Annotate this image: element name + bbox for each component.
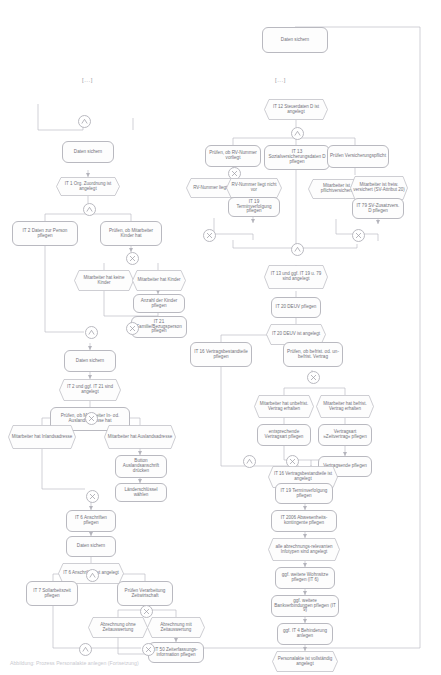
node-save-1[interactable]: Daten sichern (62, 141, 114, 163)
event-label: IT 1 Org. Zuordnung ist angelegt (56, 177, 120, 196)
node-pruefen-zeitwirtschaft[interactable]: Prüfen Verarbeitung Zeitwirtschaft (117, 581, 173, 606)
node-event-mit-zeitauswertung[interactable]: Abrechnung mit Zeitauswertung (147, 617, 205, 638)
figure-caption: Abbildung: Prozess Personalakte anlegen … (10, 660, 139, 666)
connector-and-r1[interactable] (291, 127, 304, 140)
event-label: Personalakte ist vollständig angelegt (272, 651, 338, 672)
event-label: Mitarbeiter hat Inlandsadresse (8, 425, 76, 449)
node-laenderschluessel[interactable]: Länderschlüssel wählen (115, 483, 167, 502)
event-label: Mitarbeiter hat unbefrist. Vertrag erhal… (254, 395, 314, 418)
event-label: alle abrechnungs-relevanten Infotypen si… (268, 538, 340, 561)
node-save-3[interactable]: Daten sichern (66, 536, 116, 557)
node-event-unbefristet[interactable]: Mitarbeiter hat unbefrist. Vertrag erhal… (254, 395, 314, 418)
node-event-ausland[interactable]: Mitarbeiter hat Auslandsadresse (104, 425, 176, 449)
node-vertragsart-entsprechend[interactable]: entsprechende Vertragsart pflegen (257, 424, 311, 446)
node-save-2[interactable]: Daten sichern (64, 350, 116, 372)
node-button-auslandsanschrift[interactable]: Button Auslandsanschrift drücken (115, 455, 167, 478)
event-label: Mitarbeiter ist freiw. versichert (SV-At… (350, 176, 408, 200)
event-label: IT 12 Steuerdaten D ist angelegt (264, 99, 328, 120)
node-it21[interactable]: IT 21 Familie/Bezugsperson pflegen (131, 316, 187, 338)
node-event-rv-fehlt[interactable]: RV-Nummer liegt nicht vor (226, 178, 282, 198)
connector-and-l2[interactable] (83, 203, 96, 216)
connector-and-l6[interactable] (79, 643, 92, 656)
break-marker-right: [...] (275, 77, 286, 83)
node-it50[interactable]: IT 50 Zeiterfassungs-information pflegen (148, 642, 204, 663)
node-event-keine-kinder[interactable]: Mitarbeiter hat keine Kinder (74, 270, 134, 291)
event-label: IT 13 und ggf. IT 19 u. 79 sind angelegt (264, 265, 328, 289)
event-label: Mitarbeiter hat keine Kinder (74, 270, 134, 291)
node-event-befristet[interactable]: Mitarbeiter hat befrist. Vertrag erhalte… (316, 395, 374, 418)
connector-xor-l2[interactable] (126, 322, 139, 335)
connector-xor-l6[interactable] (142, 643, 155, 656)
connector-xor-r2[interactable] (203, 229, 216, 242)
connector-xor-l3[interactable] (85, 412, 98, 425)
node-it6[interactable]: IT 6 Anschriften pflegen (66, 510, 116, 532)
connector-and-l5[interactable] (86, 569, 99, 582)
break-marker-left: [...] (82, 77, 93, 83)
event-label: RV-Nummer liegt nicht vor (226, 178, 282, 198)
connector-xor-r5[interactable] (307, 371, 320, 384)
node-event-freiw-versichert[interactable]: Mitarbeiter ist freiw. versichert (SV-At… (350, 176, 408, 200)
connector-xor-r4[interactable] (352, 229, 365, 242)
node-vertragsart-zeitvertrag[interactable]: Vertragsart »Zeitvertrag« pflegen (318, 424, 372, 446)
connector-xor-l4[interactable] (86, 490, 99, 503)
node-weitere-wohnsitze[interactable]: ggf. weitere Wohnsitze pflegen (IT 6) (275, 567, 335, 589)
connector-and-l3[interactable] (85, 326, 98, 339)
node-event-personalakte-final[interactable]: Personalakte ist vollständig angelegt (272, 651, 338, 672)
node-event-it13-complete[interactable]: IT 13 und ggf. IT 19 u. 79 sind angelegt (264, 265, 328, 289)
connector-and-r2[interactable] (291, 243, 304, 256)
event-label: Abrechnung ohne Zeitauswertung (88, 617, 148, 638)
event-label: Mitarbeiter hat Auslandsadresse (104, 425, 176, 449)
node-it19-b[interactable]: IT 19 Terminverfolgung pflegen (275, 483, 333, 504)
node-event-it2-it21[interactable]: IT 2 und ggf. IT 21 sind angelegt (59, 379, 121, 401)
node-event-kinder[interactable]: Mitarbeiter hat Kinder (132, 270, 186, 291)
node-pruefen-kinder[interactable]: Prüfen, ob Mitarbeiter Kinder hat (100, 221, 162, 246)
node-event-it12[interactable]: IT 12 Steuerdaten D ist angelegt (264, 99, 328, 120)
event-label: IT 2 und ggf. IT 21 sind angelegt (59, 379, 121, 401)
node-it7[interactable]: IT 7 Sollarbeitszeit pflegen (26, 581, 78, 606)
node-it2006[interactable]: IT 2006 Abwesenheits-kontingente pflegen (271, 510, 337, 532)
node-it20[interactable]: IT 20 DEUV pflegen (271, 297, 321, 318)
connector-and-l1[interactable] (78, 115, 91, 128)
connector-and-r4[interactable] (243, 455, 256, 468)
flowchart-canvas: Daten sichern [...] [...] Daten sichern … (0, 0, 441, 675)
node-it79[interactable]: IT 79 SV-Zusatzvers. D pflegen (352, 198, 404, 219)
node-event-infotypen[interactable]: alle abrechnungs-relevanten Infotypen si… (268, 538, 340, 561)
node-top-save[interactable]: Daten sichern (262, 27, 328, 53)
node-anzahl-kinder[interactable]: Anzahl der Kinder pflegen (133, 294, 185, 313)
event-label: Mitarbeiter hat befrist. Vertrag erhalte… (316, 395, 374, 418)
node-event-ohne-zeitauswertung[interactable]: Abrechnung ohne Zeitauswertung (88, 617, 148, 638)
node-pruefen-vertrag[interactable]: Prüfen, ob befrist. od. un-befrist. Vert… (283, 342, 343, 367)
node-it16[interactable]: IT 16 Vertragsbestandteile pflegen (190, 342, 252, 367)
node-it19-a[interactable]: IT 19 Terminverfolgung pflegen (228, 197, 280, 217)
node-weitere-bankverbindungen[interactable]: ggf. weitere Bankverbindungen pflegen (I… (271, 595, 339, 617)
connector-xor-l1[interactable] (126, 252, 139, 265)
event-label: Abrechnung mit Zeitauswertung (147, 617, 205, 638)
node-it2[interactable]: IT 2 Daten zur Person pflegen (12, 221, 78, 246)
node-pruefen-rvnummer[interactable]: Prüfen, ob RV-Nummer vorliegt (205, 145, 261, 167)
node-it4-behinderung[interactable]: ggf. IT 4 Behinderung anlegen (277, 623, 333, 645)
node-event-inland[interactable]: Mitarbeiter hat Inlandsadresse (8, 425, 76, 449)
event-label: Mitarbeiter hat Kinder (132, 270, 186, 291)
node-pruefen-versicherungspflicht[interactable]: Prüfen Versicherungspflicht (327, 145, 389, 168)
node-event-it1[interactable]: IT 1 Org. Zuordnung ist angelegt (56, 177, 120, 196)
node-it13[interactable]: IT 13 Sozialversicherungsdaten D pflegen (264, 145, 330, 170)
